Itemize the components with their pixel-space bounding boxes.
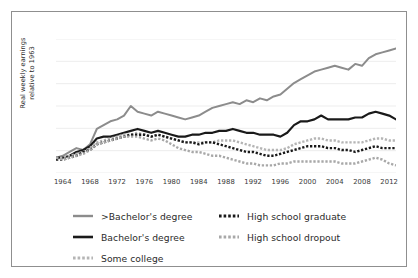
x-tick-2012: 2012 — [372, 178, 406, 186]
legend-swatch-gt_bachelors — [72, 211, 94, 221]
x-axis-tick-labels: 1964196819721976198019841988199219962000… — [56, 178, 396, 190]
legend-swatch-some_college — [72, 253, 94, 263]
chart-figure: Real weekly earnings relative to 1963 19… — [0, 0, 418, 278]
y-axis-label: Real weekly earnings relative to 1963 — [19, 14, 47, 132]
legend-label-bachelors: Bachelor's degree — [101, 232, 185, 243]
series-line-hs_graduate — [56, 135, 396, 160]
legend-label-some_college: Some college — [101, 253, 164, 264]
legend-label-gt_bachelors: >Bachelor's degree — [101, 211, 192, 222]
legend-item-hs_dropout[interactable]: High school dropout — [218, 229, 340, 245]
legend-item-hs_graduate[interactable]: High school graduate — [218, 208, 346, 224]
chart-legend: >Bachelor's degreeBachelor's degreeSome … — [72, 208, 402, 270]
legend-swatch-hs_graduate — [218, 211, 240, 221]
legend-item-some_college[interactable]: Some college — [72, 250, 164, 266]
plot-svg — [56, 39, 396, 173]
legend-label-hs_graduate: High school graduate — [247, 211, 346, 222]
legend-swatch-hs_dropout — [218, 232, 240, 242]
legend-swatch-bachelors — [72, 232, 94, 242]
legend-label-hs_dropout: High school dropout — [247, 232, 340, 243]
legend-item-gt_bachelors[interactable]: >Bachelor's degree — [72, 208, 192, 224]
plot-area — [56, 39, 396, 173]
legend-item-bachelors[interactable]: Bachelor's degree — [72, 229, 185, 245]
figure-frame: Real weekly earnings relative to 1963 19… — [11, 11, 407, 267]
